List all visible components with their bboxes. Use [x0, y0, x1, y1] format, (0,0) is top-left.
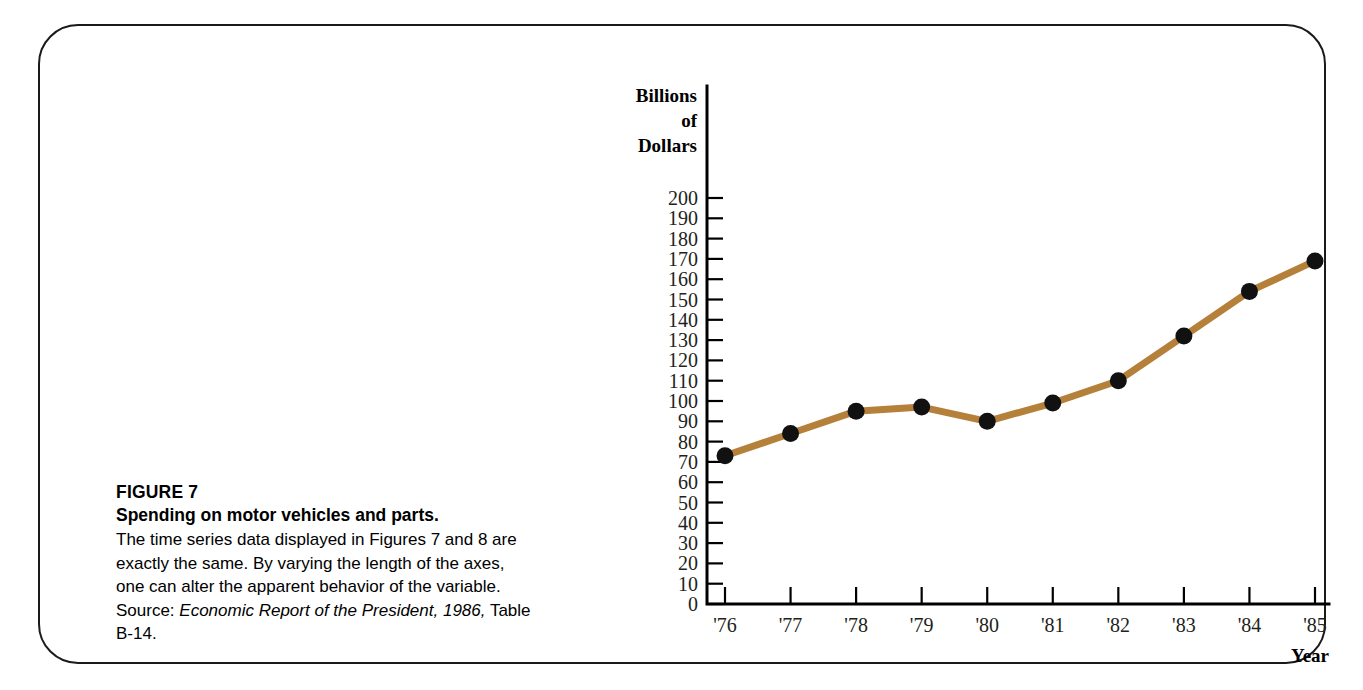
- y-tick-label: 200: [668, 187, 698, 209]
- y-tick-label: 60: [678, 471, 698, 493]
- y-tick-label: 20: [678, 552, 698, 574]
- y-tick-label: 80: [678, 431, 698, 453]
- y-tick-label: 170: [668, 248, 698, 270]
- data-point: [979, 413, 996, 430]
- chart-svg: Billions of Dollars 01020304050607080901…: [585, 72, 1345, 672]
- y-tick-label: 160: [668, 268, 698, 290]
- y-tick-label: 150: [668, 289, 698, 311]
- data-point: [1241, 283, 1258, 300]
- chart-axes: [707, 86, 1329, 604]
- y-tick-label: 100: [668, 390, 698, 412]
- y-tick-label: 110: [669, 370, 698, 392]
- x-tick-label: '80: [975, 614, 999, 636]
- y-tick-label: 0: [688, 593, 698, 615]
- x-tick-label: '81: [1041, 614, 1065, 636]
- y-tick-label: 90: [678, 410, 698, 432]
- x-axis-ticks: '76'77'78'79'80'81'82'83'84'85: [713, 587, 1327, 636]
- data-point: [848, 403, 865, 420]
- x-axis-title: Year: [1291, 645, 1330, 666]
- y-tick-label: 140: [668, 309, 698, 331]
- y-axis-title-line-3: Dollars: [638, 135, 697, 156]
- y-tick-label: 120: [668, 349, 698, 371]
- data-point: [1110, 372, 1127, 389]
- x-tick-label: '85: [1303, 614, 1327, 636]
- y-axis-title-line-1: Billions: [636, 85, 697, 106]
- y-axis-ticks: 0102030405060708090100110120130140150160…: [668, 187, 723, 615]
- caption-source-citation: Economic Report of the President, 1986,: [179, 601, 485, 620]
- y-tick-label: 180: [668, 228, 698, 250]
- y-tick-label: 10: [678, 573, 698, 595]
- x-tick-label: '84: [1238, 614, 1262, 636]
- data-point: [1044, 395, 1061, 412]
- x-tick-label: '79: [910, 614, 934, 636]
- x-tick-label: '78: [844, 614, 868, 636]
- data-point: [1307, 252, 1324, 269]
- y-axis-title: Billions of Dollars: [636, 85, 698, 156]
- figure-description: The time series data displayed in Figure…: [116, 528, 536, 646]
- line-chart: Billions of Dollars 01020304050607080901…: [585, 72, 1345, 672]
- figure-number: FIGURE 7: [116, 481, 536, 503]
- data-point: [913, 399, 930, 416]
- y-tick-label: 70: [678, 451, 698, 473]
- y-tick-label: 50: [678, 492, 698, 514]
- y-tick-label: 40: [678, 512, 698, 534]
- x-tick-label: '76: [713, 614, 737, 636]
- x-tick-label: '83: [1172, 614, 1196, 636]
- x-tick-label: '82: [1107, 614, 1131, 636]
- data-point: [782, 425, 799, 442]
- data-point: [717, 447, 734, 464]
- x-tick-label: '77: [779, 614, 803, 636]
- series-line: [725, 261, 1315, 456]
- y-tick-label: 130: [668, 329, 698, 351]
- y-tick-label: 30: [678, 532, 698, 554]
- figure-frame: FIGURE 7 Spending on motor vehicles and …: [38, 24, 1326, 664]
- figure-title: Spending on motor vehicles and parts.: [116, 504, 536, 527]
- data-point: [1175, 328, 1192, 345]
- series-points: [717, 252, 1324, 464]
- y-tick-label: 190: [668, 207, 698, 229]
- figure-caption: FIGURE 7 Spending on motor vehicles and …: [116, 481, 536, 646]
- y-axis-title-line-2: of: [681, 110, 698, 131]
